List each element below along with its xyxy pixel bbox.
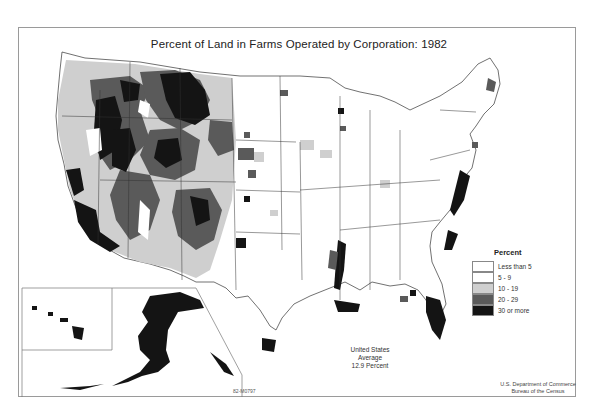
region-west-shading — [58, 60, 236, 278]
average-line-2: Average — [330, 354, 410, 362]
alaska-inset — [60, 292, 234, 390]
legend-label: Less than 5 — [498, 263, 532, 270]
hawaii-inset — [32, 306, 84, 340]
legend-label: 5 - 9 — [498, 274, 511, 281]
us-average-note: United States Average 12.9 Percent — [330, 346, 410, 370]
legend-row: Less than 5 — [472, 261, 562, 272]
legend-row: 10 - 19 — [472, 283, 562, 294]
source-line-1: U.S. Department of Commerce — [488, 381, 588, 388]
legend-swatch — [472, 305, 494, 316]
source-credit: U.S. Department of Commerce Bureau of th… — [488, 381, 588, 395]
inset-frame — [22, 288, 242, 397]
legend-swatch — [472, 261, 494, 272]
legend-swatch — [472, 272, 494, 283]
legend-label: 30 or more — [498, 307, 529, 314]
map-code: 82-M0797 — [233, 388, 256, 394]
legend-swatch — [472, 283, 494, 294]
legend-row: 30 or more — [472, 305, 562, 316]
legend-row: 5 - 9 — [472, 272, 562, 283]
choropleth-map — [0, 0, 598, 416]
legend-swatch — [472, 294, 494, 305]
average-line-3: 12.9 Percent — [330, 362, 410, 370]
legend-label: 20 - 29 — [498, 296, 518, 303]
legend-title: Percent — [494, 248, 562, 257]
legend-label: 10 - 19 — [498, 285, 518, 292]
legend-row: 20 - 29 — [472, 294, 562, 305]
source-line-2: Bureau of the Census — [488, 388, 588, 395]
legend: Percent Less than 5 5 - 9 10 - 19 20 - 2… — [472, 248, 562, 316]
average-line-1: United States — [330, 346, 410, 354]
